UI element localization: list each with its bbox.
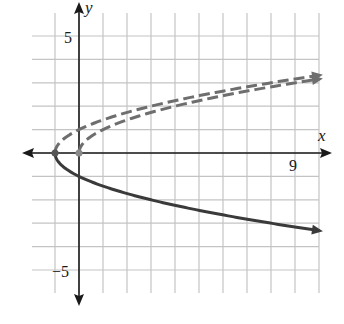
axes bbox=[22, 2, 332, 306]
vertex-point bbox=[52, 150, 59, 157]
y-tick-neg5: −5 bbox=[52, 263, 69, 280]
curve-2 bbox=[55, 153, 319, 231]
x-axis-label: x bbox=[317, 126, 326, 145]
vertex-point bbox=[76, 150, 83, 157]
curve-arrow-icon bbox=[311, 225, 323, 235]
y-axis-label: y bbox=[83, 0, 93, 17]
x-tick-9: 9 bbox=[289, 157, 297, 174]
graph: y x 9 5 −5 bbox=[0, 0, 344, 324]
curve-1 bbox=[55, 75, 319, 153]
y-tick-5: 5 bbox=[64, 29, 72, 46]
